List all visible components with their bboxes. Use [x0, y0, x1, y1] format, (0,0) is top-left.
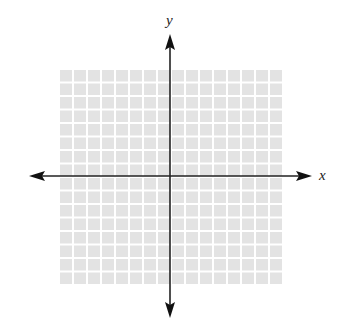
grid-cell: [158, 84, 170, 96]
grid-cell: [74, 84, 86, 96]
grid-cell: [228, 151, 240, 163]
grid-cell: [200, 192, 212, 204]
grid-cell: [186, 111, 198, 123]
grid-cell: [102, 70, 114, 82]
grid-cell: [242, 259, 254, 271]
grid-cell: [172, 138, 184, 150]
grid-cell: [186, 151, 198, 163]
grid-cell: [116, 70, 128, 82]
grid-cell: [158, 192, 170, 204]
grid-cell: [214, 219, 226, 231]
grid-cell: [228, 124, 240, 136]
grid-cell: [102, 273, 114, 285]
grid-cell: [186, 97, 198, 109]
grid-cell: [242, 246, 254, 258]
grid-cell: [158, 70, 170, 82]
grid-cell: [130, 246, 142, 258]
grid-cell: [88, 178, 100, 190]
grid-cell: [102, 84, 114, 96]
grid-cell: [88, 232, 100, 244]
grid-cell: [228, 70, 240, 82]
grid-cell: [214, 259, 226, 271]
grid-cell: [200, 205, 212, 217]
grid-cell: [186, 84, 198, 96]
grid-cell: [74, 259, 86, 271]
grid-cell: [158, 273, 170, 285]
grid-cell: [172, 178, 184, 190]
grid-cell: [130, 124, 142, 136]
grid-cell: [256, 138, 268, 150]
grid-cell: [102, 97, 114, 109]
grid-cell: [242, 124, 254, 136]
grid-cell: [74, 70, 86, 82]
grid-cell: [144, 124, 156, 136]
grid-cell: [102, 232, 114, 244]
grid-cell: [186, 259, 198, 271]
grid-cell: [256, 97, 268, 109]
grid-cell: [116, 111, 128, 123]
grid-cell: [228, 111, 240, 123]
grid-cell: [88, 259, 100, 271]
grid-cell: [116, 178, 128, 190]
grid-cell: [186, 165, 198, 177]
grid-cell: [158, 232, 170, 244]
grid-cell: [186, 205, 198, 217]
grid-cell: [60, 219, 72, 231]
grid-cell: [242, 97, 254, 109]
grid-cell: [270, 70, 282, 82]
grid-cell: [200, 165, 212, 177]
grid-cell: [172, 124, 184, 136]
grid-cell: [144, 192, 156, 204]
grid-cell: [60, 124, 72, 136]
grid-cell: [74, 165, 86, 177]
grid-cell: [102, 246, 114, 258]
grid-cell: [270, 273, 282, 285]
grid-cell: [228, 246, 240, 258]
grid-cell: [130, 205, 142, 217]
grid-cell: [102, 178, 114, 190]
grid-cell: [200, 97, 212, 109]
grid-cell: [144, 232, 156, 244]
grid-cell: [214, 138, 226, 150]
grid-cell: [116, 84, 128, 96]
grid-cell: [172, 219, 184, 231]
grid-cell: [200, 151, 212, 163]
grid-cell: [242, 84, 254, 96]
grid-cell: [270, 205, 282, 217]
grid-cell: [172, 70, 184, 82]
grid-cell: [158, 205, 170, 217]
grid-cell: [256, 124, 268, 136]
grid-cell: [270, 219, 282, 231]
grid-cell: [270, 178, 282, 190]
grid-cell: [242, 192, 254, 204]
grid-cell: [228, 192, 240, 204]
grid-cell: [186, 138, 198, 150]
grid-cell: [116, 273, 128, 285]
grid-cell: [242, 219, 254, 231]
grid-cell: [60, 246, 72, 258]
grid-cell: [270, 165, 282, 177]
grid-cell: [242, 273, 254, 285]
grid-cell: [186, 273, 198, 285]
grid-cell: [214, 111, 226, 123]
grid-cell: [60, 205, 72, 217]
grid-cell: [74, 111, 86, 123]
grid-cell: [130, 84, 142, 96]
grid-cell: [256, 111, 268, 123]
grid-cell: [242, 205, 254, 217]
grid-cell: [200, 84, 212, 96]
grid-cell: [144, 138, 156, 150]
grid-cell: [186, 246, 198, 258]
grid-cell: [144, 165, 156, 177]
grid-cell: [214, 205, 226, 217]
grid-cell: [200, 111, 212, 123]
grid-cell: [116, 246, 128, 258]
grid-cell: [228, 97, 240, 109]
grid-cell: [88, 165, 100, 177]
grid-cell: [116, 97, 128, 109]
grid-cell: [186, 219, 198, 231]
grid-cell: [88, 205, 100, 217]
grid-cell: [144, 246, 156, 258]
grid-cell: [256, 205, 268, 217]
grid-cell: [144, 219, 156, 231]
